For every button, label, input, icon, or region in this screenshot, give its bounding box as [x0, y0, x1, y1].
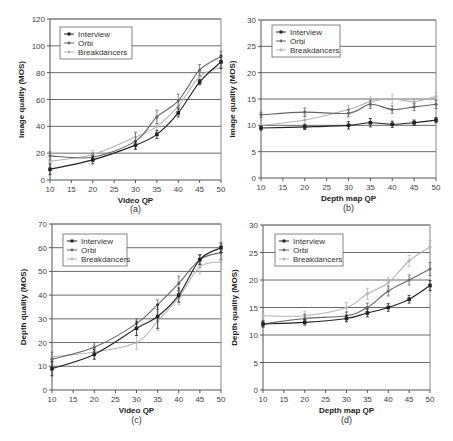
- x-axis: 101520253035404550: [259, 390, 435, 404]
- data-marker: [366, 292, 369, 295]
- y-tick-label: 10: [38, 362, 47, 371]
- x-tick-label: 40: [174, 395, 183, 404]
- data-marker: [50, 358, 53, 361]
- data-marker: [428, 284, 432, 288]
- x-tick-label: 50: [432, 183, 441, 192]
- data-marker: [434, 103, 437, 106]
- legend-label: Interview: [290, 28, 322, 37]
- x-axis: 101520253035404550: [46, 180, 226, 194]
- x-tick-label: 25: [322, 183, 331, 192]
- x-axis-label: Depth map QP: [319, 406, 375, 415]
- legend-label: Interview: [78, 30, 110, 39]
- data-marker: [390, 122, 394, 126]
- y-tick-label: 40: [36, 122, 45, 131]
- y-tick-label: 5: [252, 148, 257, 157]
- x-tick-label: 45: [195, 185, 204, 194]
- data-marker: [135, 341, 138, 344]
- legend-label: Interview: [293, 237, 325, 246]
- x-tick-label: 45: [410, 183, 419, 192]
- chart-b: 051015202530101520253035404550Depth map …: [228, 16, 441, 213]
- data-marker: [428, 267, 431, 270]
- data-marker: [369, 103, 372, 106]
- data-marker: [259, 126, 263, 130]
- y-tick-label: 20: [247, 69, 256, 78]
- legend-marker: [283, 249, 286, 252]
- series-breakdancers: [48, 62, 222, 167]
- x-tick-label: 25: [321, 395, 330, 404]
- x-tick-label: 30: [132, 395, 141, 404]
- legend-marker: [68, 42, 71, 45]
- x-tick-label: 35: [152, 185, 161, 194]
- x-axis: 101520253035404550: [48, 390, 226, 404]
- x-tick-label: 40: [384, 395, 393, 404]
- data-marker: [369, 121, 373, 125]
- y-tick-label: 40: [38, 291, 47, 300]
- x-tick-label: 35: [366, 183, 375, 192]
- chart-a: 020406080100120101520253035404550Video Q…: [17, 15, 226, 214]
- data-marker: [156, 315, 160, 319]
- legend: InterviewOrbiBreakdancers: [60, 27, 132, 59]
- data-marker: [155, 125, 158, 128]
- subfigure-caption: (b): [343, 203, 354, 213]
- data-marker: [408, 259, 411, 262]
- y-tick-label: 0: [252, 174, 257, 183]
- data-marker: [259, 113, 262, 116]
- x-tick-label: 20: [90, 395, 99, 404]
- x-tick-label: 15: [279, 395, 288, 404]
- subfigure-caption: (a): [130, 204, 141, 214]
- data-marker: [407, 297, 411, 301]
- data-marker: [93, 346, 96, 349]
- data-marker: [366, 306, 369, 309]
- legend: InterviewOrbiBreakdancers: [63, 234, 130, 266]
- x-tick-label: 45: [195, 395, 204, 404]
- data-marker: [366, 311, 370, 315]
- data-marker: [176, 111, 180, 115]
- legend: InterviewOrbiBreakdancers: [275, 234, 343, 266]
- y-tick-label: 10: [249, 331, 258, 340]
- y-tick-label: 100: [32, 42, 46, 51]
- data-marker: [198, 265, 201, 268]
- x-tick-label: 50: [217, 185, 226, 194]
- data-marker: [48, 154, 51, 157]
- data-marker: [434, 95, 437, 98]
- x-tick-label: 45: [405, 395, 414, 404]
- y-tick-label: 15: [249, 304, 258, 313]
- data-marker: [303, 321, 307, 325]
- data-marker: [387, 289, 390, 292]
- legend-label: Orbi: [81, 246, 96, 255]
- subfigure-caption: (d): [341, 415, 352, 425]
- data-marker: [177, 282, 180, 285]
- y-tick-label: 0: [254, 386, 259, 395]
- x-tick-label: 30: [131, 185, 140, 194]
- data-marker: [303, 125, 307, 129]
- data-marker: [50, 367, 54, 371]
- y-tick-label: 25: [247, 42, 256, 51]
- data-marker: [198, 68, 201, 71]
- data-marker: [135, 327, 139, 331]
- legend-marker: [280, 49, 283, 52]
- y-tick-label: 120: [32, 15, 46, 24]
- x-tick-label: 40: [174, 185, 183, 194]
- y-tick-label: 70: [38, 220, 47, 229]
- y-tick-label: 15: [247, 95, 256, 104]
- y-axis-label: Image quality (MOS): [228, 60, 237, 137]
- legend-label: Breakdancers: [81, 255, 130, 264]
- x-axis-label: Depth map QP: [321, 194, 377, 203]
- legend-marker: [283, 258, 286, 261]
- legend-label: Interview: [81, 237, 113, 246]
- data-marker: [347, 124, 351, 128]
- x-axis: 101520253035404550: [257, 178, 441, 192]
- data-marker: [391, 97, 394, 100]
- x-tick-label: 10: [46, 185, 55, 194]
- data-marker: [155, 115, 158, 118]
- x-tick-label: 50: [217, 395, 226, 404]
- y-tick-label: 20: [36, 149, 45, 158]
- y-tick-label: 50: [38, 267, 47, 276]
- data-marker: [303, 118, 306, 121]
- data-marker: [347, 112, 350, 115]
- data-marker: [387, 281, 390, 284]
- x-tick-label: 15: [67, 185, 76, 194]
- data-marker: [219, 60, 223, 64]
- y-tick-label: 30: [247, 16, 256, 25]
- data-marker: [219, 260, 222, 263]
